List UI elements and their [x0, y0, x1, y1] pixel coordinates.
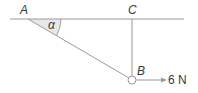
label-alpha: α	[48, 18, 56, 32]
label-c: C	[128, 3, 137, 17]
diagram-canvas: A C B α 6 N	[0, 0, 198, 93]
label-a: A	[19, 3, 28, 17]
string-ab	[28, 19, 129, 78]
label-force: 6 N	[168, 73, 187, 87]
arrowhead-icon	[161, 78, 167, 83]
particle-b	[128, 76, 136, 84]
label-b: B	[137, 64, 145, 78]
